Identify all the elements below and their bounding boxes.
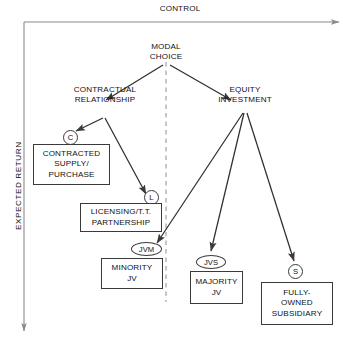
box-majority-jv: MAJORITY JV <box>190 271 243 304</box>
node-modal-choice: MODAL CHOICE <box>131 42 201 62</box>
box-licensing-tt-partnership-label: LICENSING/T.T. PARTNERSHIP <box>91 207 152 227</box>
box-contracted-supply-purchase-label: CONTRACTED SUPPLY/ PURCHASE <box>43 149 101 180</box>
box-licensing-tt-partnership: LICENSING/T.T. PARTNERSHIP <box>80 203 162 232</box>
box-fully-owned-subsidiary: FULLY- OWNED SUBSIDIARY <box>261 282 333 325</box>
tag-jvm: JVM <box>131 242 162 256</box>
edge-contractual-to-c <box>76 118 103 131</box>
node-contractual-relationship: CONTRACTUAL RELATIONSHIP <box>55 85 155 105</box>
box-majority-jv-label: MAJORITY JV <box>195 277 237 297</box>
box-minority-jv-label: MINORITY JV <box>112 263 153 283</box>
edge-equity-to-s <box>247 113 294 261</box>
control-axis-label: CONTROL <box>145 4 215 14</box>
edge-contractual-to-l <box>105 118 146 194</box>
expected-return-axis-label: EXPECTED RETURN <box>14 141 23 230</box>
edge-equity-to-jvm <box>157 113 243 243</box>
node-equity-investment: EQUITY INVESTMENT <box>202 85 288 105</box>
tag-c: C <box>63 130 78 145</box>
edge-equity-to-jvs <box>211 113 244 251</box>
box-minority-jv: MINORITY JV <box>101 258 163 289</box>
tag-s: S <box>288 264 303 279</box>
box-contracted-supply-purchase: CONTRACTED SUPPLY/ PURCHASE <box>33 144 110 185</box>
box-fully-owned-subsidiary-label: FULLY- OWNED SUBSIDIARY <box>272 288 322 319</box>
tag-jvs: JVS <box>196 255 226 269</box>
diagram-canvas: CONTROL EXPECTED RETURN MODAL CHOICE CON… <box>0 0 343 340</box>
